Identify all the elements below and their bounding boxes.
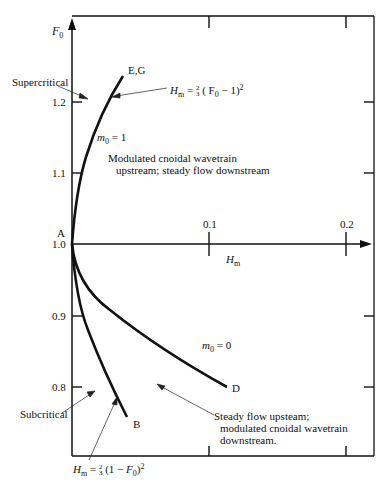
y-tick-label-0-8: 0.8 — [52, 381, 66, 393]
x-axis — [72, 240, 372, 248]
formula-H: H — [73, 463, 81, 475]
x-tick-label-0-2: 0.2 — [340, 218, 354, 230]
x-axis-label-main: H — [226, 253, 234, 265]
m0-value: = 1 — [112, 131, 126, 143]
upper-region-line-2: upstream; steady flow downstream — [108, 164, 270, 176]
lower-region-description: Steady flow upsteam; modulated cnoidal w… — [214, 410, 348, 446]
formula-H-sub: m — [81, 469, 87, 478]
arrowhead-icon — [112, 397, 117, 405]
x-axis-label: Hm — [226, 253, 240, 270]
x-axis-label-sub: m — [234, 259, 240, 268]
fraction-two-thirds: 23 — [196, 85, 200, 97]
m-subscript: 0 — [210, 345, 214, 354]
point-label-D: D — [232, 382, 240, 394]
upper-region-line-1: Modulated cnoidal wavetrain — [108, 152, 270, 164]
m0-value: = 0 — [217, 339, 231, 351]
y-tick-label-1-1: 1.1 — [52, 167, 66, 179]
fraction-two-thirds: 23 — [99, 464, 103, 476]
frac-den: 3 — [196, 91, 200, 97]
pointer-lines — [58, 86, 214, 460]
formula-upper: Hm = 23 ( F0 − 1)2 — [170, 82, 244, 101]
formula-lower-prefix: (1 − — [105, 463, 126, 475]
y-tick-label-1-0: 1.0 — [52, 238, 66, 250]
m-symbol: m — [202, 339, 210, 351]
upper-region-description: Modulated cnoidal wavetrain upstream; st… — [108, 152, 270, 176]
y-axis-label-sub: 0 — [59, 31, 63, 40]
formula-F: F — [126, 463, 133, 475]
formula-square: 2 — [140, 462, 144, 471]
y-tick-label-0-9: 0.9 — [52, 310, 66, 322]
y-axis-arrow-icon — [68, 18, 76, 30]
lower-region-line-2: modulated cnoidal wavetrain — [214, 422, 348, 434]
point-label-EG: E,G — [128, 64, 145, 76]
m0-equals-0-label: m0 = 0 — [202, 339, 231, 356]
arrowhead-icon — [79, 93, 88, 99]
arrowhead-icon — [157, 384, 165, 390]
frac-den: 3 — [99, 470, 103, 476]
curve-m0-0-D — [72, 244, 227, 387]
formula-upper-tail: − 1) — [219, 84, 240, 96]
lower-region-line-3: downstream. — [214, 434, 348, 446]
m-symbol: m — [97, 131, 105, 143]
formula-H: H — [170, 84, 178, 96]
curve-subcritical-B — [72, 244, 127, 417]
formula-square: 2 — [240, 83, 244, 92]
x-axis-arrow-icon — [360, 240, 372, 248]
subcritical-label: Subcritical — [20, 408, 68, 420]
formula-H-sub: m — [178, 90, 184, 99]
formula-lower: Hm = 23 (1 − F0)2 — [73, 461, 144, 480]
y-axis-label: F0 — [52, 25, 63, 42]
m0-equals-1-label: m0 = 1 — [97, 131, 126, 148]
formula-upper-F: ( F — [202, 84, 215, 96]
y-tick-label-1-2: 1.2 — [52, 96, 66, 108]
point-label-B: B — [133, 418, 140, 430]
lower-region-line-1: Steady flow upsteam; — [214, 410, 348, 422]
supercritical-label: Supercritical — [12, 76, 68, 88]
x-tick-label-0-1: 0.1 — [203, 218, 217, 230]
arrowhead-icon — [87, 391, 95, 397]
m-subscript: 0 — [105, 137, 109, 146]
